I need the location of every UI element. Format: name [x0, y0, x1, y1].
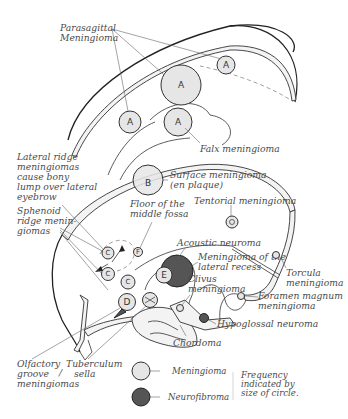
- svg-text:B: B: [145, 178, 151, 188]
- label-acoustic: Acoustic neuroma: [176, 237, 261, 248]
- label-foramen-magnum: Foramen magnum meningioma: [257, 290, 346, 311]
- label-falx: Falx meningioma: [199, 143, 280, 154]
- svg-text:C: C: [106, 249, 111, 257]
- label-hypoglossal: Hypoglossal neuroma: [216, 318, 318, 329]
- svg-text:E: E: [161, 270, 167, 280]
- svg-text:A: A: [175, 117, 182, 127]
- label-floor-middle-fossa: Floor of the middle fossa: [129, 198, 189, 219]
- svg-text:C: C: [126, 278, 131, 286]
- label-tuberculum: Tuberculum sella: [66, 358, 125, 379]
- meningioma-swatch: [132, 362, 150, 380]
- circle-e-acoustic: E: [156, 267, 172, 283]
- circle-f-middle-fossa: F: [134, 248, 143, 257]
- circle-a-small-posterior: A: [217, 56, 235, 74]
- legend-item-neurofibroma: Neurofibroma: [132, 388, 229, 406]
- circle-d-olfactory: D: [114, 294, 136, 319]
- label-tentorial: Tentorial meningioma: [194, 195, 296, 206]
- circle-tuberculum-sella: [143, 293, 158, 308]
- frontal-face-outline: [52, 235, 80, 352]
- circle-c-sphenoid-upper: C: [102, 247, 114, 259]
- label-clivus: Clivus meningioma: [188, 273, 245, 294]
- legend-label-neurofibroma: Neurofibroma: [167, 392, 229, 402]
- meningioma-sites-diagram: Parasagittal Meningioma A A A A Falx men…: [0, 0, 348, 419]
- label-surface: Surface meningioma (en plaque): [170, 169, 269, 190]
- circle-a-anterior-parasagittal: A: [119, 111, 141, 133]
- legend-item-meningioma: Meningioma: [132, 362, 226, 380]
- legend-note: Frequency indicated by size of circle.: [240, 370, 299, 398]
- circle-c-sphenoid-inner: C: [121, 275, 135, 289]
- svg-text:A: A: [223, 60, 230, 70]
- circle-a-falx: A: [164, 108, 192, 136]
- label-parasagittal: Parasagittal Meningioma: [59, 22, 119, 43]
- svg-text:A: A: [178, 80, 185, 90]
- posterior-fossa-curve: [220, 294, 240, 320]
- svg-text:C: C: [106, 270, 111, 278]
- upper-skull-back: [230, 26, 297, 102]
- svg-text:A: A: [127, 117, 134, 127]
- circle-b-surface: B: [133, 165, 163, 195]
- legend-label-meningioma: Meningioma: [171, 366, 226, 376]
- legend: Meningioma Neurofibroma Frequency indica…: [132, 362, 299, 406]
- label-torcula: Torcula meningioma: [286, 267, 343, 288]
- circle-a-large-parasagittal: A: [161, 65, 201, 105]
- circle-foramen-magnum: [238, 293, 245, 300]
- falx-leader: [185, 128, 200, 143]
- circle-g-tentorial: [226, 216, 238, 228]
- neurofibroma-swatch: [132, 388, 150, 406]
- label-lateral-ridge: Lateral ridge meningiomas cause bony lum…: [16, 151, 100, 202]
- circle-torcula: [273, 252, 280, 259]
- circle-clivus: [177, 305, 184, 312]
- svg-text:F: F: [136, 248, 140, 256]
- label-chordoma: Chordoma: [173, 337, 221, 348]
- middle-fossa-leader: [140, 222, 152, 248]
- svg-text:D: D: [124, 297, 131, 307]
- circle-c-sphenoid-mid: C: [102, 268, 115, 281]
- circle-hypoglossal: [200, 314, 209, 323]
- falx-dashed-edge: [200, 66, 292, 101]
- arrow-head-up: [119, 245, 125, 252]
